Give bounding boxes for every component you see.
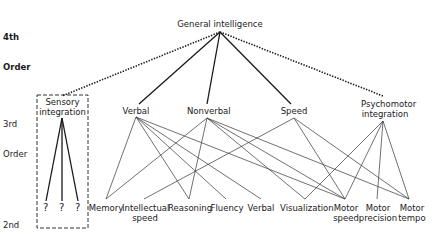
fourth-order-line2: Order (3, 62, 30, 72)
sensory-line1: Sensory (39, 97, 86, 107)
unknown-factor-3: ? (75, 203, 80, 213)
motor-tempo-line1: Motor (396, 203, 428, 213)
node-sensory-integration: Sensory integration (39, 97, 86, 117)
second-order-line1: 2nd (3, 220, 27, 230)
node-fluency: Fluency (210, 203, 244, 213)
node-memory: Memory (88, 203, 124, 213)
node-verbal-3rd: Verbal (118, 106, 154, 116)
second-order-label: 2nd Order (3, 200, 27, 234)
node-visualization: Visualization (280, 203, 332, 213)
fourth-order-label: 4th Order (3, 12, 30, 92)
intellectual-speed-line2: speed (122, 213, 168, 223)
node-reasoning: Reasoning (168, 203, 212, 213)
sensory-line2: integration (39, 107, 86, 117)
node-motor-speed: Motor speed (332, 203, 360, 223)
node-verbal-2nd: Verbal (246, 203, 276, 213)
motor-precision-line1: Motor (358, 203, 398, 213)
node-speed: Speed (277, 106, 311, 116)
motor-speed-line1: Motor (332, 203, 360, 213)
general-solid-links (139, 32, 291, 104)
third-order-line1: 3rd (3, 119, 27, 129)
general-dotted-links (62, 32, 383, 96)
motor-speed-line2: speed (332, 213, 360, 223)
intellectual-speed-line1: Intellectual (122, 203, 168, 213)
motor-precision-line2: precision (358, 213, 398, 223)
hierarchical-intelligence-diagram: 4th Order 3rd Order 2nd Order General in… (0, 0, 439, 234)
third-order-line2: Order (3, 149, 27, 159)
node-motor-precision: Motor precision (358, 203, 398, 223)
node-intellectual-speed: Intellectual speed (122, 203, 168, 223)
sensory-links (46, 118, 78, 201)
fourth-order-line1: 4th (3, 32, 30, 42)
node-motor-tempo: Motor tempo (396, 203, 428, 223)
verbal-links (106, 117, 345, 199)
node-psychomotor-integration: Psychomotor integration (361, 99, 409, 119)
psychomotor-line1: Psychomotor (361, 99, 409, 109)
unknown-factor-1: ? (43, 203, 48, 213)
node-nonverbal: Nonverbal (187, 106, 229, 116)
third-order-label: 3rd Order (3, 99, 27, 179)
node-general-intelligence: General intelligence (177, 19, 263, 29)
motor-tempo-line2: tempo (396, 213, 428, 223)
nonverbal-links (106, 118, 409, 199)
unknown-factor-2: ? (59, 203, 64, 213)
psychomotor-line2: integration (361, 109, 409, 119)
